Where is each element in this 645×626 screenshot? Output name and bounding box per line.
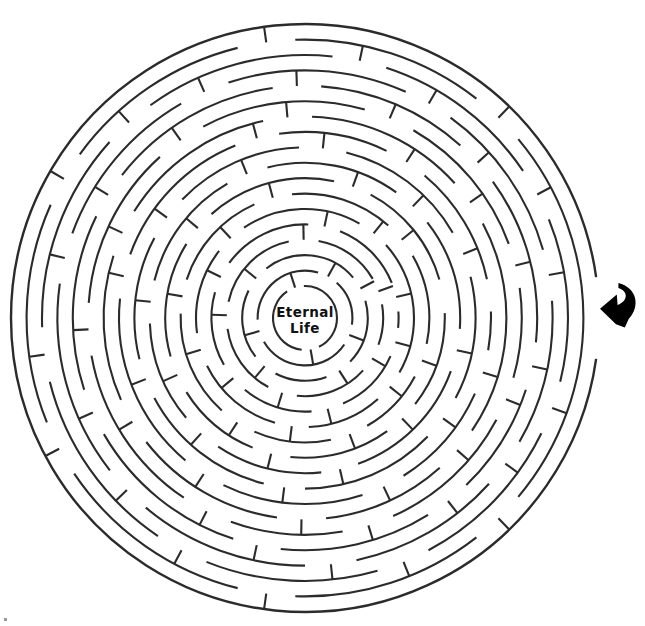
maze-arc-wall [365, 301, 367, 318]
maze-radial-wall [245, 331, 260, 335]
center-label-line1: Eternal [276, 304, 334, 320]
maze-arc-wall [428, 433, 541, 550]
maze-radial-wall [163, 375, 177, 381]
maze-arc-wall [427, 222, 460, 318]
maze-arc-wall [560, 318, 568, 382]
maze-arc-wall [483, 223, 507, 318]
maze-radial-wall [286, 102, 287, 117]
maze-radial-wall [339, 371, 347, 384]
maze-radial-wall [331, 564, 333, 579]
maze-radial-wall [413, 195, 424, 206]
maze-center-label: Eternal Life [276, 304, 334, 336]
maze-radial-wall [360, 281, 374, 288]
maze-arc-wall [57, 284, 109, 471]
maze-arc-wall [207, 366, 275, 423]
maze-radial-wall [443, 418, 455, 427]
maze-arc-wall [518, 139, 583, 318]
maze-radial-wall [515, 262, 530, 266]
maze-radial-wall [50, 254, 65, 258]
maze-arc-wall [146, 442, 277, 517]
maze-arc-wall [404, 394, 475, 476]
maze-arc-wall [245, 390, 312, 412]
maze-radial-wall [50, 171, 64, 179]
maze-arc-wall [122, 88, 273, 175]
maze-arc-wall [150, 323, 186, 417]
maze-radial-wall [390, 387, 402, 397]
maze-radial-wall [79, 412, 93, 418]
maze-radial-wall [254, 545, 257, 560]
maze-arc-wall [229, 224, 308, 263]
maze-radial-wall [323, 133, 325, 148]
maze-radial-wall [269, 183, 273, 198]
maze-radial-wall [384, 487, 391, 501]
maze-radial-wall [186, 218, 198, 228]
maze-arc-wall [297, 370, 363, 396]
maze-arc-wall [536, 318, 537, 342]
maze-radial-wall [532, 366, 547, 369]
maze-radial-wall [95, 187, 108, 195]
maze-radial-wall [328, 409, 332, 424]
maze-radial-wall [463, 248, 477, 254]
maze-arc-wall [276, 373, 327, 380]
maze-radial-wall [324, 211, 327, 226]
maze-radial-wall [311, 350, 314, 365]
maze-arc-wall [343, 356, 390, 403]
maze-radial-wall [135, 300, 150, 302]
maze-radial-wall [253, 123, 257, 138]
maze-radial-wall [340, 469, 343, 484]
maze-radial-wall [422, 361, 436, 366]
maze-radial-wall [470, 194, 483, 203]
maze-arc-wall [356, 484, 489, 561]
maze-radial-wall [278, 393, 283, 408]
maze-arc-wall [229, 242, 289, 302]
maze-radial-wall [119, 422, 132, 430]
maze-radial-wall [402, 419, 413, 430]
maze-radial-wall [200, 511, 207, 525]
maze-arc-wall [319, 318, 337, 347]
maze-radial-wall [368, 525, 373, 540]
maze-radial-wall [229, 422, 237, 435]
maze-arc-wall [382, 304, 383, 318]
maze-radial-wall [290, 273, 295, 288]
maze-radial-wall [378, 286, 392, 291]
maze-arc-wall [91, 356, 183, 498]
maze-radial-wall [448, 501, 457, 513]
maze-radial-wall [73, 329, 88, 330]
maze-arc-wall [242, 290, 255, 356]
maze-radial-wall [290, 426, 292, 441]
maze-arc-wall [456, 318, 476, 398]
maze-radial-wall [374, 221, 384, 233]
maze-arc-wall [552, 301, 553, 318]
maze-radial-wall [404, 562, 410, 576]
maze-radial-wall [267, 454, 271, 469]
maze-radial-wall [549, 272, 564, 275]
maze-radial-wall [131, 379, 145, 385]
maze-radial-wall [349, 335, 363, 341]
center-label-line2: Life [290, 320, 320, 336]
maze-arc-wall [415, 318, 445, 404]
maze-arc-wall [471, 277, 476, 318]
maze-radial-wall [372, 358, 385, 366]
maze-radial-wall [457, 350, 472, 353]
maze-arc-wall [228, 329, 269, 387]
maze-radial-wall [552, 408, 566, 413]
maze-radial-wall [282, 487, 284, 502]
maze-radial-wall [537, 187, 551, 194]
maze-arc-wall [295, 537, 476, 596]
maze-radial-wall [498, 518, 509, 529]
maze-radial-wall [328, 263, 335, 276]
maze-radial-wall [155, 209, 167, 218]
maze-radial-wall [116, 490, 127, 501]
maze-radial-wall [45, 449, 59, 456]
maze-radial-wall [220, 227, 231, 238]
circular-maze-graphic: Eternal Life [0, 0, 645, 626]
maze-radial-wall [353, 172, 358, 186]
curved-arrow-left-icon [600, 283, 636, 328]
maze-radial-wall [29, 355, 44, 357]
maze-arc-wall [211, 292, 224, 365]
maze-radial-wall [478, 152, 489, 162]
maze-radial-wall [195, 474, 203, 487]
maze-radial-wall [506, 399, 520, 405]
maze-radial-wall [207, 270, 221, 277]
maze-radial-wall [241, 160, 247, 174]
